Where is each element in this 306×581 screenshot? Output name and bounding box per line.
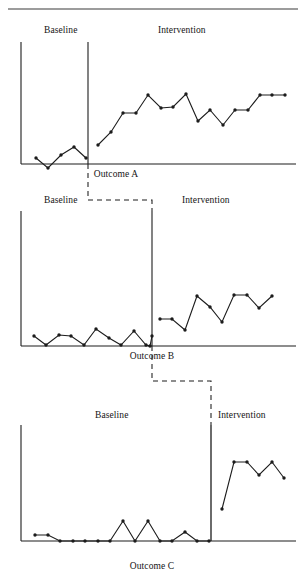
outcome-label-b: Outcome B [107, 352, 197, 362]
intervention-label-outcome-c: Intervention [218, 411, 266, 421]
multiple-baseline-figure: Baseline Intervention Outcome A Baseline… [0, 0, 306, 581]
data-point [183, 530, 186, 533]
data-point [59, 153, 62, 156]
baseline-label-outcome-b: Baseline [44, 196, 78, 206]
data-point [148, 344, 151, 347]
data-point [109, 130, 112, 133]
data-point [196, 119, 199, 122]
baseline-label-outcome-c: Baseline [95, 411, 129, 421]
series-line-intervention-outcome-a [98, 94, 285, 145]
data-point [69, 334, 72, 337]
data-point [94, 327, 97, 330]
data-point [220, 320, 223, 323]
data-point [170, 317, 173, 320]
data-point [134, 111, 137, 114]
series-line-intervention-outcome-c [222, 462, 284, 509]
panel-outcome-a [21, 42, 296, 170]
data-point [108, 539, 111, 542]
intervention-label-outcome-b: Intervention [182, 196, 230, 206]
data-point [232, 293, 235, 296]
data-point [82, 343, 85, 346]
data-point [283, 93, 286, 96]
data-point [183, 328, 186, 331]
data-point [232, 460, 235, 463]
data-point [34, 156, 37, 159]
data-point [32, 334, 35, 337]
data-point [195, 294, 198, 297]
data-point [270, 460, 273, 463]
data-point [96, 539, 99, 542]
data-point [33, 533, 36, 536]
outcome-label-a: Outcome A [71, 170, 161, 180]
data-point [258, 93, 261, 96]
series-line-baseline-outcome-a [36, 147, 86, 168]
data-point [233, 108, 236, 111]
data-point [170, 539, 173, 542]
data-point [270, 93, 273, 96]
figure-canvas [0, 0, 306, 581]
data-point [257, 473, 260, 476]
panel-outcome-c [21, 425, 296, 543]
data-point [96, 143, 99, 146]
data-point [159, 106, 162, 109]
data-point [132, 329, 135, 332]
data-point [257, 306, 260, 309]
data-point [71, 539, 74, 542]
intervention-label-outcome-a: Intervention [158, 26, 206, 36]
data-point [245, 460, 248, 463]
data-point [245, 293, 248, 296]
data-point [171, 105, 174, 108]
data-point [119, 343, 122, 346]
data-point [146, 519, 149, 522]
data-point [208, 108, 211, 111]
data-point [246, 108, 249, 111]
data-point [58, 539, 61, 542]
data-point [121, 519, 124, 522]
data-point [46, 166, 49, 169]
data-point [144, 343, 147, 346]
baseline-label-outcome-a: Baseline [44, 26, 78, 36]
series-line-baseline-outcome-c [35, 521, 209, 541]
data-point [150, 334, 153, 337]
series-dots-intervention-outcome-b [158, 293, 273, 331]
data-point [158, 539, 161, 542]
series-line-intervention-outcome-b [160, 295, 272, 330]
data-point [208, 305, 211, 308]
series-dots-baseline-outcome-a [34, 145, 87, 169]
data-point [207, 539, 210, 542]
data-point [107, 336, 110, 339]
data-point [57, 333, 60, 336]
data-point [72, 145, 75, 148]
data-point [158, 317, 161, 320]
data-point [221, 123, 224, 126]
data-point [146, 93, 149, 96]
data-point [84, 156, 87, 159]
data-point [282, 476, 285, 479]
series-dots-intervention-outcome-a [96, 92, 286, 146]
data-point [184, 92, 187, 95]
data-point [133, 539, 136, 542]
data-point [83, 539, 86, 542]
outcome-label-c: Outcome C [107, 562, 197, 572]
data-point [44, 343, 47, 346]
data-point [195, 539, 198, 542]
panel-outcome-b [21, 211, 296, 348]
data-point [121, 111, 124, 114]
series-dots-baseline-outcome-b [32, 327, 153, 347]
data-point [46, 533, 49, 536]
data-point [220, 507, 223, 510]
data-point [270, 294, 273, 297]
